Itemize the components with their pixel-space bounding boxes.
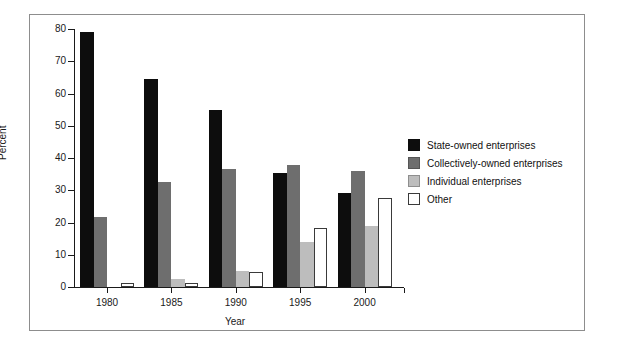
x-tick-mark	[300, 288, 301, 293]
legend-label: State-owned enterprises	[427, 140, 535, 151]
bar	[300, 242, 314, 287]
bar	[171, 279, 185, 287]
bar	[158, 182, 172, 287]
bar	[222, 169, 236, 287]
bar	[351, 171, 365, 287]
legend-swatch-icon	[408, 175, 420, 187]
x-tick-mark	[365, 288, 366, 293]
y-tick-label: 30	[44, 185, 66, 195]
bar	[236, 271, 250, 287]
x-tick-label: 2000	[335, 297, 395, 308]
y-tick-label: 0	[44, 282, 66, 292]
bar	[94, 217, 108, 287]
x-axis-line	[74, 287, 404, 288]
x-tick-label: 1985	[141, 297, 201, 308]
y-tick-label: 70	[44, 56, 66, 66]
bar	[378, 198, 392, 287]
bar	[287, 165, 301, 287]
bar	[249, 272, 263, 287]
x-tick-mark	[171, 288, 172, 293]
legend-swatch-icon	[408, 193, 420, 205]
x-tick-label: 1995	[270, 297, 330, 308]
x-tick-label: 1990	[206, 297, 266, 308]
x-tick-mark	[236, 288, 237, 293]
y-tick-label: 80	[44, 24, 66, 34]
legend-item: Collectively-owned enterprises	[408, 154, 578, 172]
x-axis-title: Year	[0, 316, 470, 327]
y-tick-label: 10	[44, 250, 66, 260]
legend-item: Individual enterprises	[408, 172, 578, 190]
legend-swatch-icon	[408, 157, 420, 169]
y-tick-mark	[68, 287, 74, 288]
legend-label: Other	[427, 194, 452, 205]
legend-label: Collectively-owned enterprises	[427, 158, 563, 169]
y-tick-label: 50	[44, 121, 66, 131]
bar	[185, 283, 199, 288]
bar	[338, 193, 352, 287]
bar	[314, 228, 328, 287]
y-tick-label: 40	[44, 153, 66, 163]
x-tick-mark	[404, 288, 405, 293]
legend-swatch-icon	[408, 139, 420, 151]
legend-item: Other	[408, 190, 578, 208]
bar	[209, 110, 223, 287]
bar	[144, 79, 158, 287]
legend-item: State-owned enterprises	[408, 136, 578, 154]
x-tick-mark	[107, 288, 108, 293]
bar	[273, 173, 287, 287]
bar	[365, 226, 379, 287]
y-tick-label: 20	[44, 218, 66, 228]
x-tick-label: 1980	[77, 297, 137, 308]
y-axis-title: Percent	[0, 126, 8, 160]
bar	[80, 32, 94, 287]
plot-area	[74, 29, 396, 287]
y-tick-label: 60	[44, 89, 66, 99]
chart-legend: State-owned enterprisesCollectively-owne…	[408, 136, 578, 208]
bar	[121, 283, 135, 287]
chart-figure: Percent 01020304050607080 19801985199019…	[0, 0, 617, 343]
legend-label: Individual enterprises	[427, 176, 522, 187]
